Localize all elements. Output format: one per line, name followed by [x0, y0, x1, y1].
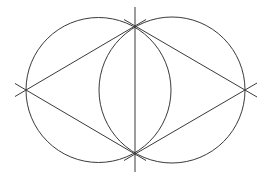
geometric-diagram	[0, 0, 270, 179]
rhombus-edge-right-top	[124, 20, 257, 98]
rhombus-edge-left-bottom	[15, 84, 146, 161]
right-circle	[99, 17, 245, 163]
rhombus-edge-right-bottom	[124, 83, 257, 161]
rhombus-edge-left-top	[15, 20, 146, 97]
